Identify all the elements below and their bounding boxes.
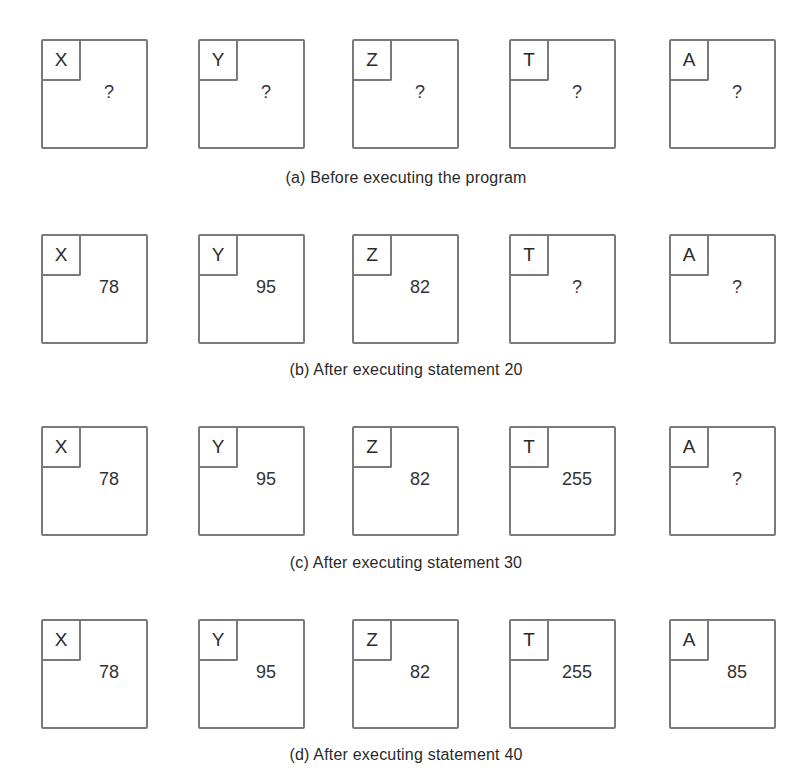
memory-cell-a: A ? — [669, 426, 776, 536]
variable-label: X — [43, 621, 81, 661]
variable-label: A — [671, 621, 709, 661]
variable-value: 78 — [79, 468, 139, 490]
variable-label: A — [671, 428, 709, 468]
state-row-a: X ? Y ? Z ? T ? A ? — [0, 39, 812, 150]
memory-cell-t: T 255 — [509, 619, 616, 729]
state-row-d: X 78 Y 95 Z 82 T 255 A 85 — [0, 619, 812, 730]
variable-label: X — [43, 428, 81, 468]
variable-value: 82 — [390, 661, 450, 683]
memory-cell-a: A ? — [669, 234, 776, 344]
state-row-b: X 78 Y 95 Z 82 T ? A ? — [0, 234, 812, 345]
variable-value: ? — [79, 81, 139, 103]
variable-label: T — [511, 621, 549, 661]
memory-cell-x: X 78 — [41, 426, 148, 536]
variable-value: ? — [707, 276, 767, 298]
variable-value: 95 — [236, 276, 296, 298]
variable-value: 95 — [236, 661, 296, 683]
variable-value: 78 — [79, 661, 139, 683]
variable-value: ? — [547, 81, 607, 103]
memory-cell-x: X ? — [41, 39, 148, 149]
memory-cell-y: Y 95 — [198, 234, 305, 344]
variable-label: X — [43, 236, 81, 276]
variable-value: 255 — [547, 661, 607, 683]
memory-cell-a: A 85 — [669, 619, 776, 729]
variable-label: Y — [200, 236, 238, 276]
memory-cell-t: T 255 — [509, 426, 616, 536]
memory-cell-z: Z 82 — [352, 426, 459, 536]
variable-label: Z — [354, 428, 392, 468]
variable-label: Y — [200, 41, 238, 81]
variable-value: 78 — [79, 276, 139, 298]
memory-cell-y: Y 95 — [198, 426, 305, 536]
variable-label: A — [671, 41, 709, 81]
variable-value: 255 — [547, 468, 607, 490]
variable-value: ? — [390, 81, 450, 103]
variable-value: ? — [707, 468, 767, 490]
variable-value: 95 — [236, 468, 296, 490]
memory-cell-x: X 78 — [41, 619, 148, 729]
variable-label: Z — [354, 621, 392, 661]
variable-label: Y — [200, 621, 238, 661]
memory-cell-z: Z 82 — [352, 234, 459, 344]
variable-value: 82 — [390, 276, 450, 298]
memory-cell-t: T ? — [509, 234, 616, 344]
variable-label: X — [43, 41, 81, 81]
memory-cell-a: A ? — [669, 39, 776, 149]
variable-value: 85 — [707, 661, 767, 683]
memory-cell-x: X 78 — [41, 234, 148, 344]
variable-value: 82 — [390, 468, 450, 490]
state-row-c: X 78 Y 95 Z 82 T 255 A ? — [0, 426, 812, 537]
variable-label: Y — [200, 428, 238, 468]
variable-label: T — [511, 428, 549, 468]
memory-cell-y: Y 95 — [198, 619, 305, 729]
caption-a: (a) Before executing the program — [0, 169, 812, 187]
variable-label: A — [671, 236, 709, 276]
caption-c: (c) After executing statement 30 — [0, 554, 812, 572]
variable-value: ? — [707, 81, 767, 103]
variable-label: Z — [354, 41, 392, 81]
caption-d: (d) After executing statement 40 — [0, 746, 812, 764]
variable-value: ? — [236, 81, 296, 103]
variable-label: T — [511, 236, 549, 276]
caption-b: (b) After executing statement 20 — [0, 361, 812, 379]
memory-cell-y: Y ? — [198, 39, 305, 149]
memory-cell-z: Z ? — [352, 39, 459, 149]
variable-label: T — [511, 41, 549, 81]
variable-label: Z — [354, 236, 392, 276]
variable-value: ? — [547, 276, 607, 298]
memory-cell-t: T ? — [509, 39, 616, 149]
memory-cell-z: Z 82 — [352, 619, 459, 729]
